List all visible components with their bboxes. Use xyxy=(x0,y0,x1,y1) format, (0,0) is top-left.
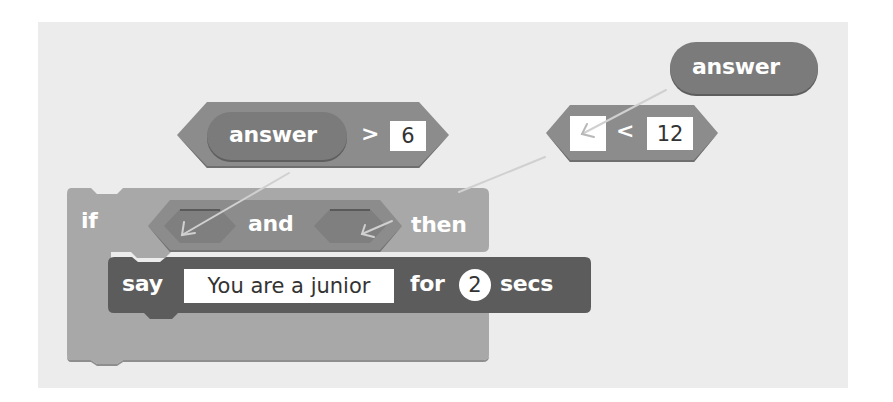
say-message-input[interactable]: You are a junior xyxy=(184,269,394,303)
greater-than-right-input[interactable]: 6 xyxy=(390,121,426,151)
then-keyword: then xyxy=(411,212,467,237)
for-keyword: for xyxy=(410,271,445,296)
secs-keyword: secs xyxy=(500,271,553,296)
and-operator: and xyxy=(248,211,293,236)
say-seconds-input[interactable]: 2 xyxy=(459,269,491,301)
answer-reporter-block[interactable]: answer xyxy=(670,42,818,94)
greater-than-block[interactable]: answer > 6 xyxy=(177,102,449,168)
and-left-slot[interactable] xyxy=(164,209,236,243)
say-for-secs-block[interactable]: say You are a junior for 2 secs xyxy=(108,257,591,321)
say-keyword: say xyxy=(122,271,163,296)
answer-reporter-in-greater-than[interactable]: answer xyxy=(207,112,347,160)
answer-label: answer xyxy=(692,54,780,79)
if-keyword: if xyxy=(81,208,98,233)
answer-label: answer xyxy=(229,122,317,147)
less-than-block[interactable]: < 12 xyxy=(546,105,718,162)
less-than-operator: < xyxy=(616,118,634,143)
greater-than-operator: > xyxy=(361,121,379,146)
and-block[interactable]: and xyxy=(148,200,402,252)
less-than-left-input[interactable] xyxy=(570,116,606,151)
less-than-right-input[interactable]: 12 xyxy=(647,117,693,150)
and-right-slot[interactable] xyxy=(314,209,386,243)
